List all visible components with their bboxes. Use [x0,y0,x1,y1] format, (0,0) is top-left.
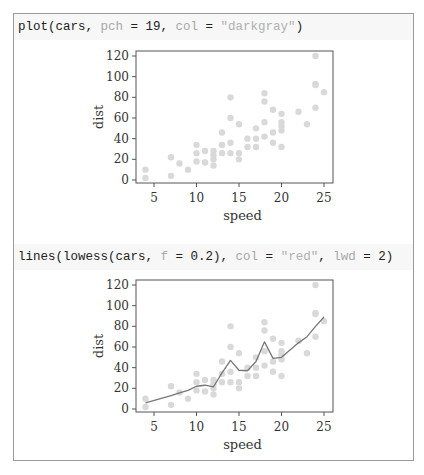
data-point [168,154,174,160]
data-point [176,160,182,166]
code-token: = [123,20,146,34]
data-point [227,344,233,350]
data-point [253,144,259,150]
code-token: lwd [333,250,356,264]
data-point [244,144,250,150]
data-point [142,404,148,410]
data-point [253,135,259,141]
y-tick-label: 60 [114,111,129,125]
x-tick-label: 25 [316,420,331,434]
code-token: f [161,250,169,264]
data-point [270,140,276,146]
x-tick-label: 5 [150,420,158,434]
data-point [219,379,225,385]
x-tick-label: 10 [189,191,204,205]
data-point [227,323,233,329]
data-point [236,350,242,356]
data-point [312,53,318,59]
code-token: "red" [281,250,319,264]
data-point [168,383,174,389]
y-tick-label: 0 [121,402,129,416]
data-point [193,379,199,385]
data-point [193,142,199,148]
y-tick-label: 20 [114,152,129,166]
code-token: 2 [378,250,386,264]
data-point [168,402,174,408]
x-tick-label: 5 [150,191,158,205]
data-point [304,350,310,356]
data-point [210,391,216,397]
data-point [193,371,199,377]
x-tick-label: 25 [316,191,331,205]
code-token: , [318,250,333,264]
data-point [227,94,233,100]
y-tick-label: 40 [114,361,129,375]
data-point [261,133,267,139]
y-tick-label: 120 [106,278,129,292]
data-point [202,388,208,394]
x-tick-label: 15 [231,420,246,434]
code-token: col [236,250,259,264]
data-point [261,90,267,96]
data-point [142,395,148,401]
data-point [278,373,284,379]
code-token: = [168,250,191,264]
lowess-line [146,317,325,403]
code-token: = [258,250,281,264]
data-point [312,282,318,288]
code-token: = [356,250,379,264]
x-tick-label: 20 [274,191,289,205]
y-tick-label: 120 [106,49,129,63]
data-point [142,175,148,181]
data-point [219,142,225,148]
code-token: plot(cars, [18,20,101,34]
data-point [278,348,284,354]
data-point [270,358,276,364]
y-tick-label: 80 [114,319,129,333]
data-point [304,121,310,127]
y-tick-label: 80 [114,90,129,104]
data-point [168,173,174,179]
y-tick-label: 60 [114,340,129,354]
x-tick-label: 20 [274,420,289,434]
code-token: "darkgray" [221,20,296,34]
x-axis-label: speed [223,437,262,452]
data-point [219,129,225,135]
data-point [312,104,318,110]
data-point [236,121,242,127]
data-point [261,348,267,354]
data-point [219,150,225,156]
data-point [227,379,233,385]
x-tick-label: 15 [231,191,246,205]
data-point [185,166,191,172]
x-tick-label: 10 [189,420,204,434]
y-axis-label: dist [91,104,106,129]
data-point [312,81,318,87]
data-point [261,98,267,104]
data-point [236,379,242,385]
data-point [261,319,267,325]
data-point [210,162,216,168]
y-tick-label: 100 [106,70,129,84]
data-point [227,150,233,156]
code-token: ) [386,250,394,264]
y-tick-label: 100 [106,299,129,313]
code-line-plot: plot(cars, pch = 19, col = "darkgray") [14,14,413,40]
code-token: 0.2 [191,250,214,264]
data-point [253,364,259,370]
plot-box [136,51,333,183]
data-point [227,140,233,146]
data-point [253,125,259,131]
data-point [261,362,267,368]
code-token: , [161,20,176,34]
y-tick-label: 20 [114,381,129,395]
data-point [227,115,233,121]
code-token: lines(lowess(cars, [18,250,161,264]
data-point [202,148,208,154]
data-point [142,166,148,172]
code-token: ), [213,250,236,264]
data-point [244,135,250,141]
data-point [278,144,284,150]
code-token: ) [296,20,304,34]
data-point [219,358,225,364]
